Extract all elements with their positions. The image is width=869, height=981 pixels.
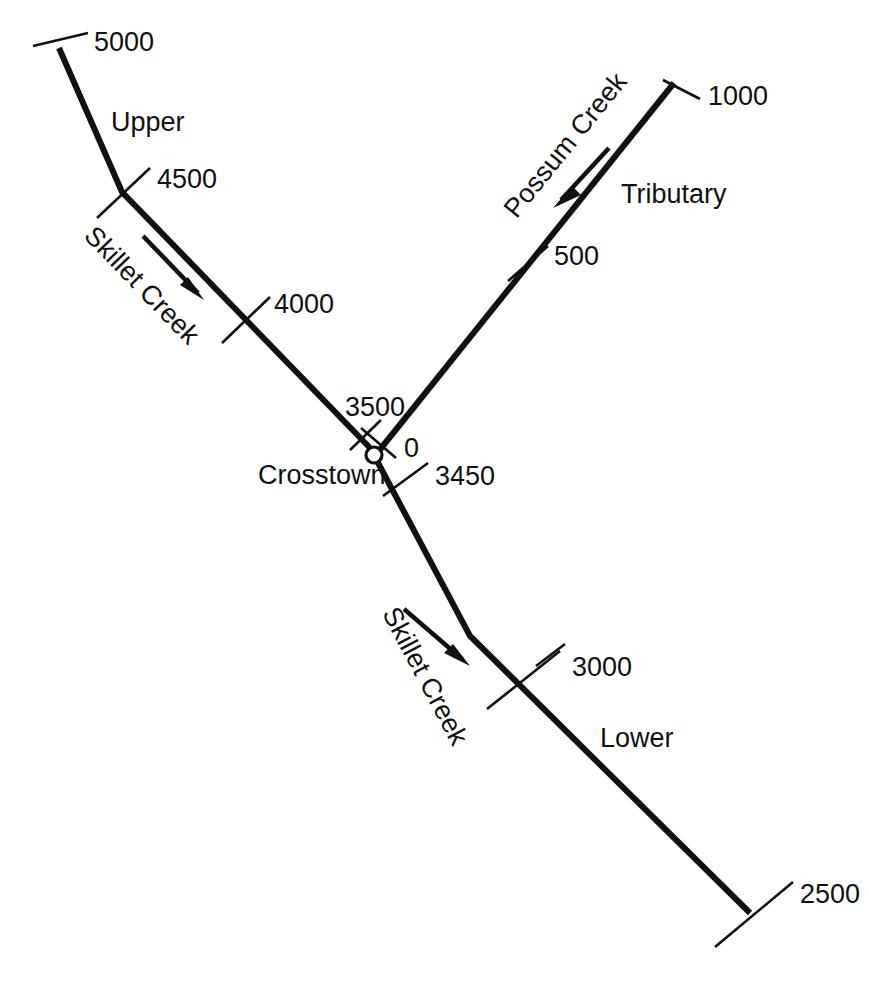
tick-station-500 [508, 246, 548, 281]
label-reach-tributary: Tributary [621, 179, 727, 209]
label-creek-skillet-lower: Skillet Creek [376, 602, 474, 750]
label-station-1000: 1000 [708, 81, 768, 111]
label-station-4500: 4500 [157, 164, 217, 194]
label-station-4000: 4000 [274, 289, 334, 319]
label-station-3500: 3500 [345, 392, 405, 422]
stream-network-diagram: 5000 4500 4000 3500 0 3450 3000 2500 100… [0, 0, 869, 981]
label-node-crosstown: Crosstown [258, 460, 386, 490]
label-station-2500: 2500 [800, 879, 860, 909]
tick-station-5000 [33, 33, 88, 46]
stream-map-svg: 5000 4500 4000 3500 0 3450 3000 2500 100… [0, 0, 869, 981]
label-reach-upper: Upper [111, 107, 185, 137]
label-station-3000: 3000 [572, 652, 632, 682]
label-station-500: 500 [554, 241, 599, 271]
leader-line-station-3000 [536, 644, 565, 666]
label-station-0: 0 [404, 433, 419, 463]
label-station-5000: 5000 [94, 27, 154, 57]
label-reach-lower: Lower [600, 723, 674, 753]
stream-line-possum-creek [378, 83, 674, 452]
label-station-3450: 3450 [435, 461, 495, 491]
